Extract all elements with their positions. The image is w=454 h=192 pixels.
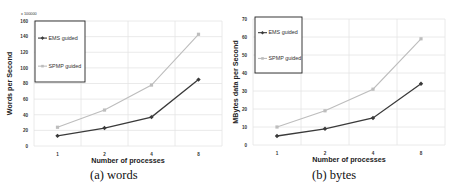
data-point (55, 134, 59, 138)
legend: EMS guidedSPMP guided (255, 17, 302, 73)
x-tick-label: 1 (276, 151, 279, 156)
legend: EMS guidedSPMP guided (35, 21, 85, 82)
data-point (197, 33, 200, 36)
data-point (275, 125, 278, 128)
x-tick-label: 1 (56, 152, 59, 157)
y-tick-label: 40 (242, 71, 248, 76)
data-point (275, 134, 279, 138)
legend-marker (41, 65, 44, 68)
x-tick-label: 8 (197, 152, 200, 157)
data-point (102, 126, 106, 130)
data-point (323, 109, 326, 112)
y-tick-label: 0 (25, 144, 28, 149)
legend-marker (261, 57, 264, 60)
y-tick-label: 40 (23, 113, 29, 118)
y-tick-label: 20 (242, 107, 248, 112)
legend-label: SPMP guided (269, 55, 302, 61)
y-tick-label: 0 (244, 143, 247, 148)
y-axis-label: MBytes data per Second (231, 40, 240, 123)
data-point (419, 37, 422, 40)
y-tick-label: 60 (23, 97, 29, 102)
y-tick-label: 120 (20, 50, 28, 55)
data-point (371, 88, 374, 91)
y-tick-label: 140 (20, 34, 28, 39)
legend-box (35, 21, 85, 82)
y-axis-label: Words per Second (5, 52, 14, 115)
chart-0: 0204060801001201401601248Number of proce… (5, 12, 222, 165)
y-tick-label: 10 (242, 125, 248, 130)
y-tick-label: 80 (23, 81, 29, 86)
caption-bytes: (b) bytes (312, 168, 356, 183)
legend-box (255, 17, 302, 73)
legend-label: EMS guided (49, 35, 78, 41)
data-point (103, 108, 106, 111)
caption-words: (a) words (90, 168, 138, 183)
figure: 0204060801001201401601248Number of proce… (0, 0, 454, 192)
y-tick-label: 70 (242, 17, 248, 22)
x-tick-label: 8 (420, 151, 423, 156)
y-tick-label: 20 (23, 128, 29, 133)
data-point (150, 83, 153, 86)
x-axis-label: Number of processes (312, 155, 386, 164)
y-tick-label: 50 (242, 53, 248, 58)
data-point (56, 126, 59, 129)
charts-svg: 0204060801001201401601248Number of proce… (0, 0, 454, 192)
y-tick-label: 100 (20, 66, 28, 71)
legend-label: EMS guided (269, 29, 298, 35)
y-tick-label: 30 (242, 89, 248, 94)
y-tick-label: 60 (242, 35, 248, 40)
chart-1: 0102030405060701248Number of processesMB… (231, 17, 445, 164)
x-axis-label: Number of processes (91, 156, 165, 165)
y-multiplier-label: x 100000 (21, 12, 37, 16)
y-tick-label: 160 (20, 19, 28, 24)
legend-label: SPMP guided (49, 63, 82, 69)
